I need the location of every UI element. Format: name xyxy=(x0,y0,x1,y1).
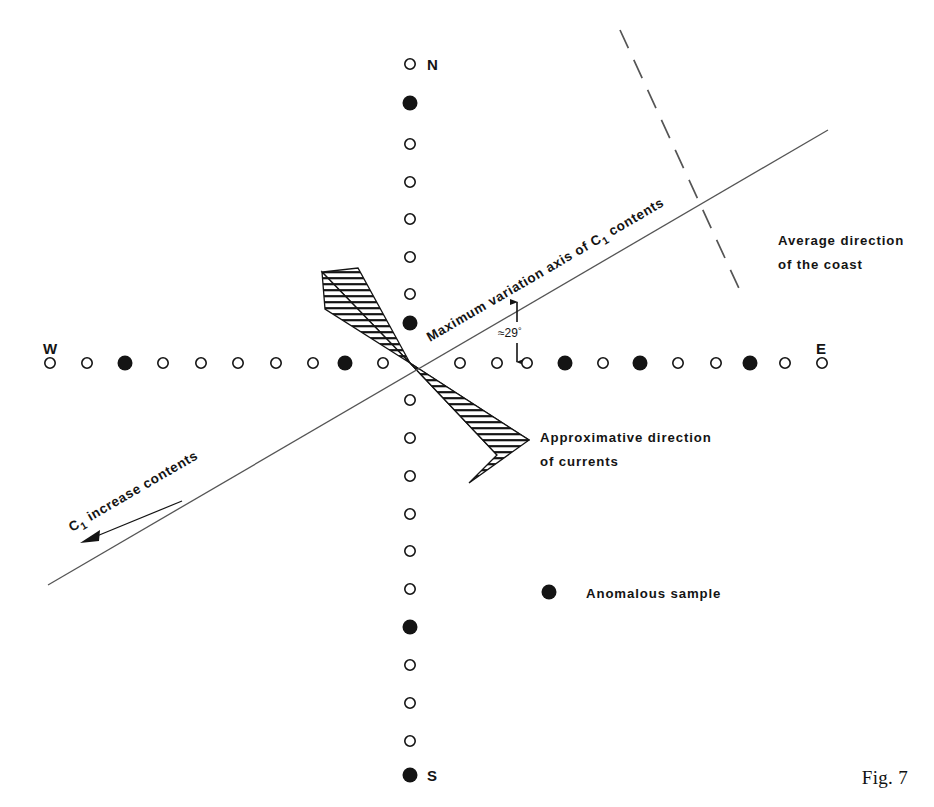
normal-sample-point xyxy=(405,584,415,594)
west-east-sample-points xyxy=(45,356,827,371)
normal-sample-point xyxy=(405,546,415,556)
c1-increase-label-group: C1 increase contents xyxy=(66,448,202,538)
normal-sample-point xyxy=(158,358,168,368)
coast-label-line1: Average direction xyxy=(778,233,904,248)
normal-sample-point xyxy=(405,59,415,69)
normal-sample-point xyxy=(405,289,415,299)
normal-sample-point xyxy=(45,358,55,368)
normal-sample-point xyxy=(405,214,415,224)
normal-sample-point xyxy=(405,471,415,481)
normal-sample-point xyxy=(405,660,415,670)
anomalous-sample-point xyxy=(403,316,418,331)
normal-sample-point xyxy=(405,736,415,746)
normal-sample-point xyxy=(196,358,206,368)
compass-label-south: S xyxy=(427,767,437,784)
anomalous-sample-point xyxy=(118,356,133,371)
normal-sample-point xyxy=(271,358,281,368)
anomalous-sample-point xyxy=(403,768,418,783)
legend-label: Anomalous sample xyxy=(586,586,721,601)
anomalous-sample-point xyxy=(633,356,648,371)
anomalous-sample-point xyxy=(558,356,573,371)
anomalous-sample-point xyxy=(403,620,418,635)
normal-sample-point xyxy=(405,395,415,405)
anomalous-sample-point xyxy=(403,96,418,111)
normal-sample-point xyxy=(82,358,92,368)
currents-label-line1: Approximative direction xyxy=(540,430,712,445)
normal-sample-point xyxy=(780,358,790,368)
currents-bowtie-lower-wing-b xyxy=(410,363,529,483)
figure-caption: Fig. 7 xyxy=(862,767,908,789)
normal-sample-point xyxy=(233,358,243,368)
average-coast-direction-line xyxy=(620,30,742,295)
anomalous-sample-point xyxy=(743,356,758,371)
angle-degree-symbol: ° xyxy=(518,326,522,336)
normal-sample-point xyxy=(405,509,415,519)
normal-sample-point xyxy=(405,433,415,443)
figure-root: N S W E Maximum variation axis of C1 con… xyxy=(0,0,934,807)
anomalous-sample-point xyxy=(338,356,353,371)
svg-text:Maximum variation axis of C1 c: Maximum variation axis of C1 contents xyxy=(424,195,668,347)
c1-increase-label-tail: increase contents xyxy=(81,448,201,526)
angle-value: ≈29 xyxy=(498,326,518,340)
figure-canvas: N S W E Maximum variation axis of C1 con… xyxy=(0,0,934,807)
normal-sample-point xyxy=(405,698,415,708)
normal-sample-point xyxy=(817,358,827,368)
normal-sample-point xyxy=(405,252,415,262)
normal-sample-point xyxy=(308,358,318,368)
normal-sample-point xyxy=(455,358,465,368)
maximum-variation-axis-label-group: Maximum variation axis of C1 contents xyxy=(424,195,668,347)
coast-label-line2: of the coast xyxy=(778,257,863,272)
normal-sample-point xyxy=(711,358,721,368)
svg-text:C1 increase contents: C1 increase contents xyxy=(66,448,202,538)
legend: Anomalous sample xyxy=(542,585,722,602)
normal-sample-point xyxy=(405,177,415,187)
north-south-sample-points xyxy=(403,59,418,783)
compass-label-west: W xyxy=(43,340,58,357)
currents-label-line2: of currents xyxy=(540,454,619,469)
normal-sample-point xyxy=(378,358,388,368)
legend-filled-circle-icon xyxy=(542,585,557,600)
compass-label-east: E xyxy=(816,340,826,357)
angle-value-label: ≈29° xyxy=(498,326,522,340)
max-axis-label-tail: contents xyxy=(602,195,666,241)
normal-sample-point xyxy=(405,139,415,149)
normal-sample-point xyxy=(598,358,608,368)
compass-label-north: N xyxy=(427,56,438,73)
normal-sample-point xyxy=(673,358,683,368)
normal-sample-point xyxy=(522,358,532,368)
normal-sample-point xyxy=(492,358,502,368)
